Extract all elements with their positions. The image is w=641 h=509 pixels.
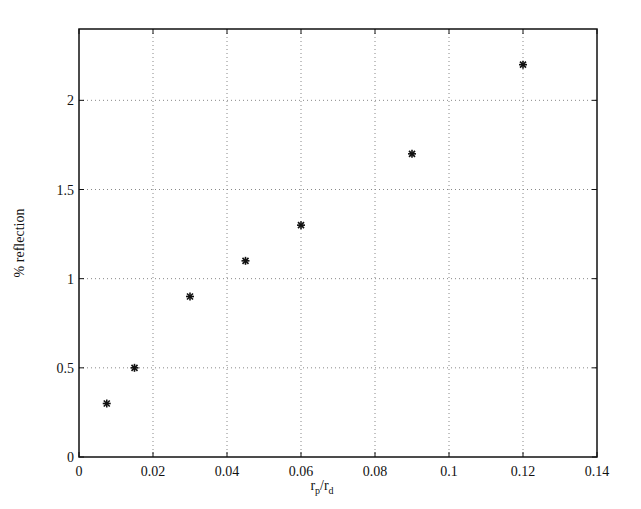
data-point-marker (242, 257, 250, 265)
data-point-marker (519, 61, 527, 69)
x-axis-label-sub-d: d (329, 485, 334, 496)
data-point-marker (103, 400, 111, 408)
axis-ticks (79, 29, 597, 457)
x-tick-label: 0.14 (585, 464, 610, 479)
y-tick-label: 1 (67, 272, 74, 287)
data-point-marker (297, 221, 305, 229)
scatter-chart: 00.020.040.060.080.10.120.14 00.511.52 r… (0, 0, 641, 509)
y-tick-label: 0 (67, 450, 74, 465)
y-tick-label: 1.5 (57, 183, 75, 198)
data-point-marker (408, 150, 416, 158)
x-tick-label: 0.08 (363, 464, 388, 479)
x-axis-label-sep: /r (320, 478, 329, 493)
data-points (103, 61, 527, 408)
y-tick-label: 0.5 (57, 361, 75, 376)
y-axis-label: % reflection (12, 209, 27, 278)
x-tick-label: 0.02 (141, 464, 166, 479)
x-tick-label: 0.06 (289, 464, 314, 479)
y-tick-label: 2 (67, 93, 74, 108)
y-tick-labels: 00.511.52 (57, 93, 75, 465)
x-tick-label: 0 (76, 464, 83, 479)
x-tick-label: 0.12 (511, 464, 536, 479)
data-point-marker (186, 293, 194, 301)
grid-lines (79, 29, 597, 457)
x-axis-label: rp/rd (310, 478, 333, 496)
x-tick-labels: 00.020.040.060.080.10.120.14 (76, 464, 610, 479)
plot-frame (79, 29, 597, 457)
x-tick-label: 0.04 (215, 464, 240, 479)
x-tick-label: 0.1 (440, 464, 458, 479)
data-point-marker (131, 364, 139, 372)
